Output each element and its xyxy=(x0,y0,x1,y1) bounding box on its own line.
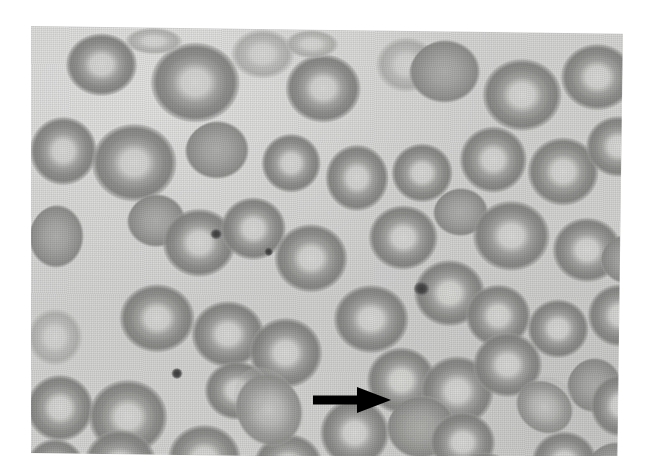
red-blood-cell xyxy=(230,29,295,82)
red-blood-cell xyxy=(125,27,183,56)
red-blood-cell xyxy=(285,29,339,60)
platelet xyxy=(264,247,273,256)
platelet xyxy=(210,228,222,239)
page-margin-right xyxy=(625,0,646,475)
page-margin-top xyxy=(0,0,646,24)
page-margin-left xyxy=(0,0,31,475)
pointer-arrow-icon xyxy=(313,386,391,414)
figure-page xyxy=(0,0,646,475)
platelet xyxy=(171,368,182,379)
page-margin-bottom xyxy=(0,456,646,475)
platelet xyxy=(413,281,429,296)
